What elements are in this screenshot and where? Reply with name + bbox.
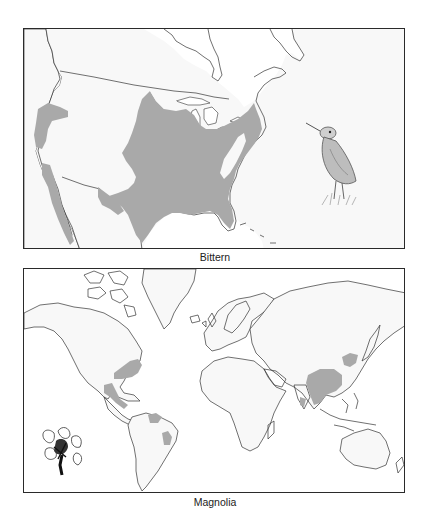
southeast-asia-islands	[320, 393, 376, 431]
magnolia-caption: Magnolia	[0, 496, 430, 508]
bittern-range-map	[23, 28, 405, 249]
north-america	[24, 303, 142, 401]
australia	[340, 429, 390, 469]
new-zealand	[396, 457, 404, 473]
magnolia-illustration	[43, 428, 82, 475]
world-map-svg	[24, 269, 405, 493]
south-america	[128, 413, 178, 491]
iceland	[190, 315, 200, 323]
magnolia-range-map	[23, 268, 405, 493]
north-america-map-svg	[24, 29, 405, 249]
bittern-caption: Bittern	[0, 251, 430, 263]
range-southeast-asia	[300, 397, 306, 407]
greenland	[142, 269, 196, 329]
